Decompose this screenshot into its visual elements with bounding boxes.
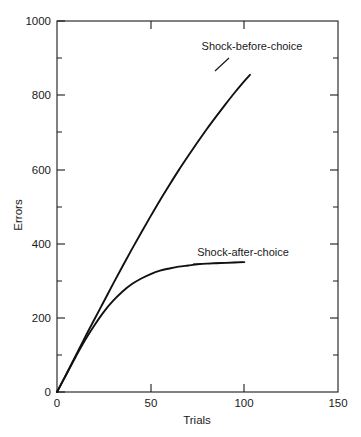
- series-line-shock-before-choice: [57, 75, 250, 392]
- right-axis-minor-ticks: [333, 58, 338, 355]
- series-line-shock-after-choice: [57, 262, 244, 392]
- leader-line-shock-before-choice: [215, 58, 229, 71]
- x-tick-label-0: 0: [54, 397, 60, 409]
- series-label-shock-after-choice: Shock-after-choice: [197, 246, 289, 258]
- chart-figure: 1000 800 600 400 200 0 0 50 100 150 Tria…: [0, 0, 361, 437]
- y-tick-label-600: 600: [32, 164, 51, 176]
- x-tick-label-50: 50: [145, 397, 158, 409]
- x-tick-label-150: 150: [328, 397, 347, 409]
- y-tick-label-0: 0: [45, 386, 51, 398]
- series-label-shock-before-choice: Shock-before-choice: [202, 40, 303, 52]
- y-tick-label-1000: 1000: [25, 15, 51, 27]
- x-axis-bottom-ticks: [151, 384, 244, 392]
- y-tick-label-400: 400: [32, 238, 51, 250]
- plot-frame: [57, 21, 338, 392]
- errors-vs-trials-chart: 1000 800 600 400 200 0 0 50 100 150 Tria…: [0, 0, 361, 437]
- x-axis-top-ticks: [151, 21, 244, 29]
- y-tick-label-800: 800: [32, 89, 51, 101]
- x-tick-label-100: 100: [234, 397, 253, 409]
- y-axis-title: Errors: [12, 199, 24, 231]
- x-axis-title: Trials: [183, 414, 211, 426]
- y-axis-minor-ticks: [57, 58, 62, 355]
- y-tick-label-200: 200: [32, 312, 51, 324]
